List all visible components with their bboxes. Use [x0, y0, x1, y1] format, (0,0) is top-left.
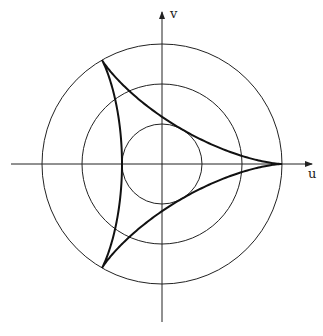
deltoid-diagram [0, 0, 323, 336]
u-axis-label: u [308, 166, 316, 181]
v-axis-label: v [170, 6, 177, 21]
figure: v u [0, 0, 323, 336]
